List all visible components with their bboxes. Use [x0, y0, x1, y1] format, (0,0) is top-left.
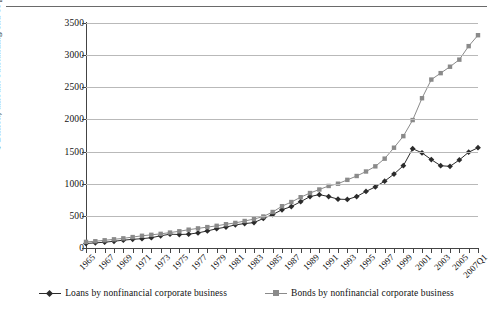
data-point [326, 194, 332, 200]
plot-area [86, 23, 478, 248]
data-point [298, 195, 302, 199]
legend-label: Loans by nonfinancial corporate business [65, 288, 227, 298]
data-point [475, 145, 481, 151]
data-point [317, 187, 321, 191]
data-point [168, 230, 172, 234]
x-axis-tick-label: 1993 [338, 252, 358, 272]
data-point [344, 197, 350, 203]
data-point [354, 194, 360, 200]
data-point [177, 229, 181, 233]
x-axis-tick-label: 1975 [170, 252, 190, 272]
y-axis-tick [82, 152, 86, 153]
series-loans [83, 145, 481, 247]
legend-marker-icon [39, 289, 61, 297]
legend-marker-icon [265, 289, 287, 297]
x-axis-tick-label: 1971 [133, 252, 153, 272]
gridline [86, 23, 478, 24]
legend-item[interactable]: Bonds by nonfinancial corporate business [265, 288, 454, 298]
data-point [372, 184, 378, 190]
data-point [476, 33, 480, 37]
x-axis-tick-label: 1997 [376, 252, 396, 272]
chart-figure: $ Billion, amount outstanding end of per… [0, 0, 493, 311]
x-axis-tick-label: 1989 [301, 252, 321, 272]
series-layer [86, 23, 478, 248]
data-point [252, 217, 256, 221]
gridline [86, 55, 478, 56]
y-axis-tick [82, 87, 86, 88]
x-axis-tick-label: 1977 [189, 252, 209, 272]
data-point [316, 192, 322, 198]
x-axis-tick-label: 1979 [208, 252, 228, 272]
y-axis-tick [82, 119, 86, 120]
data-point [93, 239, 97, 243]
x-axis-tick-label: 1967 [96, 252, 116, 272]
data-point [466, 44, 470, 48]
data-point [298, 199, 304, 205]
y-axis-tick [82, 23, 86, 24]
data-point [447, 163, 453, 169]
data-point [308, 191, 312, 195]
y-axis-tick [82, 184, 86, 185]
data-point [457, 57, 461, 61]
x-axis-tick-label: 1969 [114, 252, 134, 272]
x-axis-tick-label: 2001 [413, 252, 433, 272]
y-axis-tick [82, 55, 86, 56]
data-point [448, 65, 452, 69]
x-axis-tick-label: 1981 [226, 252, 246, 272]
data-point [429, 77, 433, 81]
data-point [102, 238, 106, 242]
y-axis-tick [82, 216, 86, 217]
data-point [373, 164, 377, 168]
data-point [289, 200, 293, 204]
x-axis-tick-label: 1965 [77, 252, 97, 272]
data-point [84, 240, 88, 244]
data-point [158, 232, 162, 236]
data-point [121, 236, 125, 240]
data-point [401, 134, 405, 138]
gridline [86, 119, 478, 120]
data-point [420, 96, 424, 100]
gridline [86, 184, 478, 185]
gridline [86, 216, 478, 217]
x-axis-tick-label: 2003 [432, 252, 452, 272]
data-point [140, 234, 144, 238]
data-point [438, 71, 442, 75]
x-axis-tick-label: 1995 [357, 252, 377, 272]
x-axis-tick-label: 1973 [152, 252, 172, 272]
data-point [363, 189, 369, 195]
data-point [438, 163, 444, 169]
x-axis-tick-label: 1987 [282, 252, 302, 272]
data-point [392, 146, 396, 150]
data-point [242, 219, 246, 223]
data-point [214, 224, 218, 228]
x-axis-tick-label: 1991 [320, 252, 340, 272]
legend-label: Bonds by nonfinancial corporate business [291, 288, 454, 298]
x-axis-tick-label: 1985 [264, 252, 284, 272]
gridline [86, 152, 478, 153]
data-point [130, 235, 134, 239]
x-axis-tick-label: 1999 [394, 252, 414, 272]
data-point [335, 196, 341, 202]
legend-item[interactable]: Loans by nonfinancial corporate business [39, 288, 227, 298]
data-point [233, 221, 237, 225]
chart-legend: Loans by nonfinancial corporate business… [0, 288, 493, 298]
data-point [280, 204, 284, 208]
data-point [270, 210, 274, 214]
data-point [288, 204, 294, 210]
data-point [345, 178, 349, 182]
gridline [86, 87, 478, 88]
data-point [186, 227, 190, 231]
data-point [224, 222, 228, 226]
data-point [196, 226, 200, 230]
data-point [195, 230, 201, 236]
series-line [86, 148, 478, 244]
x-axis-tick-label: 1983 [245, 252, 265, 272]
data-point [186, 231, 192, 237]
data-point [382, 156, 386, 160]
data-point [205, 225, 209, 229]
data-point [112, 237, 116, 241]
data-point [354, 174, 358, 178]
data-point [364, 169, 368, 173]
data-point [149, 233, 153, 237]
